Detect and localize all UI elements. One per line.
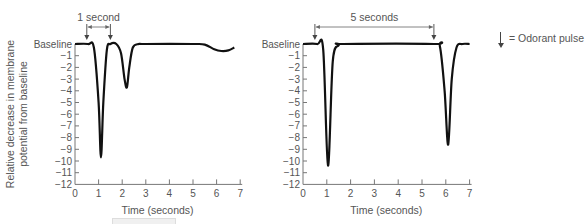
y-tick-label: −5 [289,97,301,108]
y-tick-label: −9 [289,144,301,155]
y-tick-label: −11 [284,167,301,178]
odorant-pulse-arrow-icon [312,35,317,40]
y-tick-label: −6 [61,109,73,120]
x-tick-label: 7 [237,188,243,199]
x-tick-label: 3 [143,188,149,199]
left-chart: Baseline−1−2−3−4−5−6−7−8−9−10−11−1201234… [34,11,244,216]
x-tick-label: 5 [419,188,425,199]
x-tick-label: 6 [443,188,449,199]
x-tick-label: 1 [324,188,330,199]
y-tick-label: Baseline [262,39,301,50]
y-tick-label: −1 [289,50,301,61]
y-tick-label: −12 [283,179,300,190]
right-chart: Baseline−1−2−3−4−5−6−7−8−9−10−11−1201234… [262,11,473,216]
odorant-pulse-arrow-icon [84,35,89,40]
legend-label: = Odorant pulse [509,32,584,44]
x-tick-label: 5 [190,188,196,199]
x-tick-label: 4 [167,188,173,199]
y-tick-label: −8 [61,132,73,143]
membrane-potential-line [303,40,470,166]
y-tick-label: −9 [61,144,73,155]
x-tick-label: 7 [467,188,473,199]
y-tick-label: −2 [61,62,73,73]
y-tick-label: −1 [61,50,73,61]
interval-annotation: 1 second [77,11,120,23]
y-axis-title: Relative decrease in membranepotential f… [4,40,29,188]
x-tick-label: 0 [72,188,78,199]
y-tick-label: −8 [289,132,301,143]
y-tick-label: Baseline [34,39,73,50]
x-tick-label: 3 [372,188,378,199]
y-tick-label: −7 [289,120,301,131]
x-axis-title: Time (seconds) [122,204,194,216]
caption-box [112,218,176,224]
legend: = Odorant pulse [497,32,584,48]
x-tick-label: 2 [119,188,125,199]
x-tick-label: 4 [395,188,401,199]
x-tick-label: 1 [96,188,102,199]
y-tick-label: −2 [289,62,301,73]
y-tick-label: −6 [289,109,301,120]
odorant-pulse-arrow-icon [431,35,436,40]
interval-annotation: 5 seconds [350,11,398,23]
y-tick-label: −4 [61,85,73,96]
odorant-pulse-arrow-icon [497,32,505,48]
y-tick-label: −11 [56,167,73,178]
x-tick-label: 2 [348,188,354,199]
membrane-potential-line [75,42,234,157]
svg-text:Relative decrease in membrane: Relative decrease in membrane [4,40,16,188]
svg-text:potential from baseline: potential from baseline [17,61,29,167]
y-tick-label: −5 [61,97,73,108]
odorant-pulse-arrow-icon [108,35,113,40]
y-tick-label: −10 [283,156,300,167]
y-tick-label: −3 [289,74,301,85]
x-axis-title: Time (seconds) [350,204,422,216]
y-tick-label: −12 [55,179,72,190]
y-tick-label: −3 [61,74,73,85]
y-tick-label: −10 [55,156,72,167]
x-tick-label: 0 [300,188,306,199]
x-tick-label: 6 [214,188,220,199]
y-tick-label: −7 [61,120,73,131]
y-tick-label: −4 [289,85,301,96]
